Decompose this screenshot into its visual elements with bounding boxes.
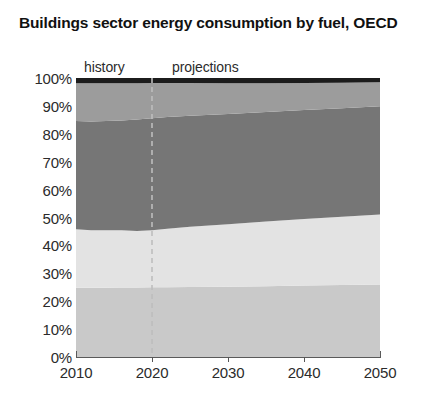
projections-annotation: projections: [172, 59, 239, 75]
x-tick-mark-2040: [304, 357, 305, 362]
x-tick-mark-2020: [152, 357, 153, 362]
x-tick-label-2040: 2040: [269, 364, 339, 381]
chart-figure: Buildings sector energy consumption by f…: [0, 0, 429, 399]
x-tick-mark-2030: [228, 357, 229, 362]
history-annotation: history: [84, 59, 125, 75]
x-tick-label-2010: 2010: [41, 364, 111, 381]
x-tick-label-2030: 2030: [193, 364, 263, 381]
x-tick-label-2050: 2050: [345, 364, 415, 381]
x-tick-label-2020: 2020: [117, 364, 187, 381]
